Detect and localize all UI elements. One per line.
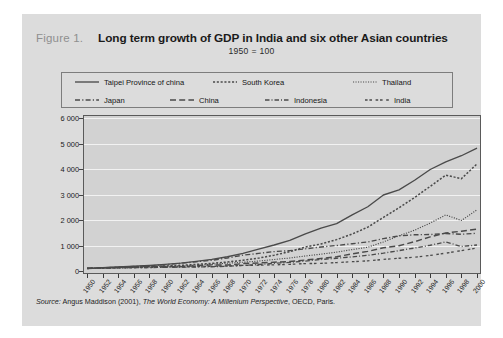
source-text-before: Angus Maddison (2001), <box>61 297 143 306</box>
y-axis-tick-label: 6 000 <box>61 114 80 123</box>
source-lead: Source: <box>36 297 61 306</box>
x-axis-tick-label: 1956 <box>128 278 143 294</box>
x-axis-tick-label: 1968 <box>222 278 237 294</box>
x-axis-tick-label: 1962 <box>175 278 190 294</box>
legend-row: JapanChinaIndonesiaIndia <box>62 91 452 109</box>
x-axis-tick-label: 1970 <box>238 278 253 294</box>
legend-item-south-korea[interactable]: South Korea <box>212 73 284 91</box>
y-axis-tick-label: 3 000 <box>61 190 80 199</box>
source-publication-title: The World Economy: A Millenium Perspecti… <box>143 297 288 306</box>
x-axis-tick-label: 1982 <box>331 278 346 294</box>
legend-item-taipei-province-of-china[interactable]: Taipei Province of china <box>74 73 184 91</box>
y-axis-tick-label: 1 000 <box>61 241 80 250</box>
x-axis-tick-label: 1964 <box>191 278 206 294</box>
y-axis-tick-label: 4 000 <box>61 165 80 174</box>
plot-wrapper: 01 0002 0003 0004 0005 0006 000 19501952… <box>61 115 481 276</box>
series-line-thailand <box>87 210 477 269</box>
legend-line-swatch-icon <box>352 77 378 87</box>
x-axis-tick-label: 1996 <box>440 278 455 294</box>
legend-item-china[interactable]: China <box>169 91 219 109</box>
legend-line-swatch-icon <box>74 95 100 105</box>
figure-panel: Figure 1. Long term growth of GDP in Ind… <box>22 14 481 326</box>
source-text-after: , OECD, Paris. <box>288 297 335 306</box>
series-line-japan <box>87 233 477 268</box>
legend-row: Taipei Province of chinaSouth KoreaThail… <box>62 73 452 91</box>
x-axis-tick-label: 1984 <box>347 278 362 294</box>
legend-line-swatch-icon <box>74 77 100 87</box>
legend-label: Taipei Province of china <box>104 78 184 87</box>
x-axis-labels: 1950195219541956195819601962196419661968… <box>83 278 481 312</box>
series-line-south-korea <box>87 164 477 269</box>
legend-label: India <box>394 96 410 105</box>
y-axis-tick-label: 5 000 <box>61 139 80 148</box>
legend-line-swatch-icon <box>364 95 390 105</box>
x-axis-tick-label: 1988 <box>378 278 393 294</box>
figure-subtitle: 1950 = 100 <box>22 46 481 56</box>
x-axis-tick-label: 1980 <box>316 278 331 294</box>
series-line-taipei-province-of-china <box>87 148 477 268</box>
x-axis-tick-label: 1950 <box>82 278 97 294</box>
x-axis-tick-label: 1972 <box>253 278 268 294</box>
plot-area <box>83 115 481 274</box>
legend-label: China <box>199 96 219 105</box>
series-layer <box>84 116 480 273</box>
legend-item-japan[interactable]: Japan <box>74 91 125 109</box>
legend-label: Thailand <box>382 78 411 87</box>
x-axis-tick-label: 1966 <box>206 278 221 294</box>
page-title: Long term growth of GDP in India and six… <box>98 31 448 45</box>
x-axis-tick-label: 1992 <box>409 278 424 294</box>
x-axis-tick-label: 1960 <box>160 278 175 294</box>
source-note: Source: Angus Maddison (2001), The World… <box>36 297 476 306</box>
x-axis-tick-label: 1958 <box>144 278 159 294</box>
x-axis-tick-label: 2000 <box>472 278 487 294</box>
legend-item-indonesia[interactable]: Indonesia <box>264 91 327 109</box>
x-axis-tick-label: 1986 <box>362 278 377 294</box>
x-axis-tick-label: 1990 <box>394 278 409 294</box>
legend-item-india[interactable]: India <box>364 91 410 109</box>
x-axis-tick-label: 1954 <box>113 278 128 294</box>
x-axis-tick-label: 1994 <box>425 278 440 294</box>
y-axis: 01 0002 0003 0004 0005 0006 000 <box>61 115 83 274</box>
series-line-indonesia <box>87 242 477 269</box>
chart-legend: Taipei Province of chinaSouth KoreaThail… <box>61 72 453 108</box>
figure-title-row: Figure 1. Long term growth of GDP in Ind… <box>36 28 472 46</box>
legend-line-swatch-icon <box>264 95 290 105</box>
x-axis-tick-label: 1998 <box>456 278 471 294</box>
legend-label: South Korea <box>242 78 284 87</box>
legend-line-swatch-icon <box>212 77 238 87</box>
y-axis-tick-label: 2 000 <box>61 216 80 225</box>
legend-label: Japan <box>104 96 125 105</box>
x-axis-tick-label: 1974 <box>269 278 284 294</box>
x-axis-tick-label: 1978 <box>300 278 315 294</box>
figure-number-label: Figure 1. <box>36 32 83 44</box>
legend-line-swatch-icon <box>169 95 195 105</box>
x-axis-tick-label: 1952 <box>97 278 112 294</box>
x-axis-tick-label: 1976 <box>284 278 299 294</box>
legend-label: Indonesia <box>294 96 327 105</box>
legend-item-thailand[interactable]: Thailand <box>352 73 411 91</box>
